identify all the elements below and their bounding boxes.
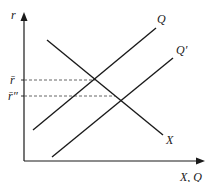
- r-bar-label: r̄: [10, 73, 15, 87]
- curve-q-prime: [52, 58, 173, 157]
- y-axis: [21, 12, 28, 161]
- y-axis-label: r: [11, 8, 16, 22]
- curve-q-prime-label: Q′: [176, 43, 188, 57]
- diagram-svg: r X, Q Q Q′ X r̄ r̄″: [0, 0, 219, 182]
- r-bar-double-prime-label: r̄″: [8, 89, 19, 103]
- diagram: r X, Q Q Q′ X r̄ r̄″: [0, 0, 219, 182]
- y-axis-arrow-icon: [21, 12, 28, 21]
- x-axis-arrow-icon: [196, 158, 205, 165]
- curve-q-label: Q: [157, 12, 166, 26]
- curve-x-label: X: [165, 133, 174, 147]
- x-axis-label: X, Q: [179, 170, 202, 182]
- x-axis: [24, 158, 205, 165]
- curve-x: [47, 40, 163, 135]
